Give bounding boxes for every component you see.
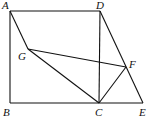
segment-FC (99, 67, 126, 103)
label-F: F (128, 58, 136, 70)
label-A: A (1, 0, 9, 11)
label-B: B (3, 106, 10, 118)
labels: A D G F B C E (1, 0, 146, 118)
label-C: C (95, 106, 103, 118)
label-E: E (138, 106, 146, 118)
segment-GC (28, 49, 99, 103)
segments (10, 11, 143, 103)
segment-GF (28, 49, 126, 67)
label-G: G (18, 50, 26, 62)
label-D: D (95, 0, 104, 11)
geometry-diagram: A D G F B C E (0, 0, 149, 135)
segment-AG (10, 11, 28, 49)
segment-DC (99, 11, 100, 103)
segment-DE (100, 11, 143, 103)
